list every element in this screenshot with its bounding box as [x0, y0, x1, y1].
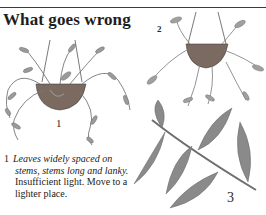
figure-3-illustration	[134, 100, 256, 208]
caption-symptom-line1: Leaves widely spaced on	[13, 153, 112, 164]
figure-1-illustration	[4, 40, 130, 145]
figure-2-label: 2	[157, 24, 162, 34]
figure-2-illustration	[146, 12, 265, 106]
caption-symptom-line2: stems, stems long and lanky.	[4, 165, 140, 177]
figure-1-label: 1	[56, 117, 62, 129]
caption-remedy-line2: lighter place.	[4, 188, 140, 200]
caption-number: 1	[4, 153, 13, 165]
caption-remedy-line1: Insufficient light. Move to a	[4, 176, 140, 188]
caption-1: 1Leaves widely spaced on stems, stems lo…	[4, 153, 140, 199]
figure-3-label: 3	[227, 190, 234, 206]
